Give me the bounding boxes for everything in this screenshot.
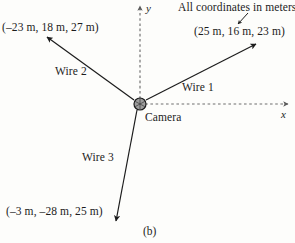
camera-label: Camera bbox=[145, 112, 181, 124]
coordinates-units-note: All coordinates in meters bbox=[178, 2, 295, 14]
wire-geometry-figure: All coordinates in meters (25 m, 16 m, 2… bbox=[0, 0, 295, 243]
wire-1-label: Wire 1 bbox=[182, 82, 214, 94]
wire-1-coordinates-label: (25 m, 16 m, 23 m) bbox=[194, 26, 285, 38]
note-pointer-arrow bbox=[238, 13, 248, 24]
wire-3-coordinates-label: (–3 m, –28 m, 25 m) bbox=[6, 206, 103, 218]
wire-2-coordinates-label: (–23 m, 18 m, 27 m) bbox=[2, 22, 99, 34]
wire-3-label: Wire 3 bbox=[82, 152, 114, 164]
panel-caption: (b) bbox=[143, 226, 156, 238]
wire-2-label: Wire 2 bbox=[55, 66, 87, 78]
x-axis-label: x bbox=[281, 109, 286, 120]
y-axis-label: y bbox=[146, 3, 151, 14]
wire-3-line bbox=[116, 110, 137, 221]
